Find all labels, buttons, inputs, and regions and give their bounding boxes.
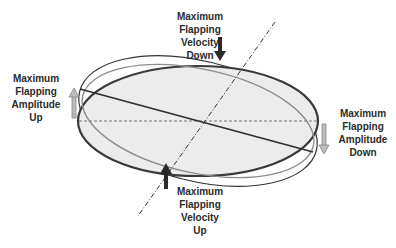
amplitude-up-arrow-icon <box>69 88 79 118</box>
label-velocity-down: Maximum Flapping Velocity Down <box>170 10 230 62</box>
flapping-diagram: Maximum Flapping Velocity Down Maximum F… <box>0 0 396 248</box>
label-amplitude-down: Maximum Flapping Amplitude Down <box>330 107 396 159</box>
label-amplitude-up: Maximum Flapping Amplitude Up <box>4 72 68 124</box>
label-velocity-up: Maximum Flapping Velocity Up <box>170 185 230 237</box>
amplitude-down-arrow-icon <box>319 124 329 154</box>
